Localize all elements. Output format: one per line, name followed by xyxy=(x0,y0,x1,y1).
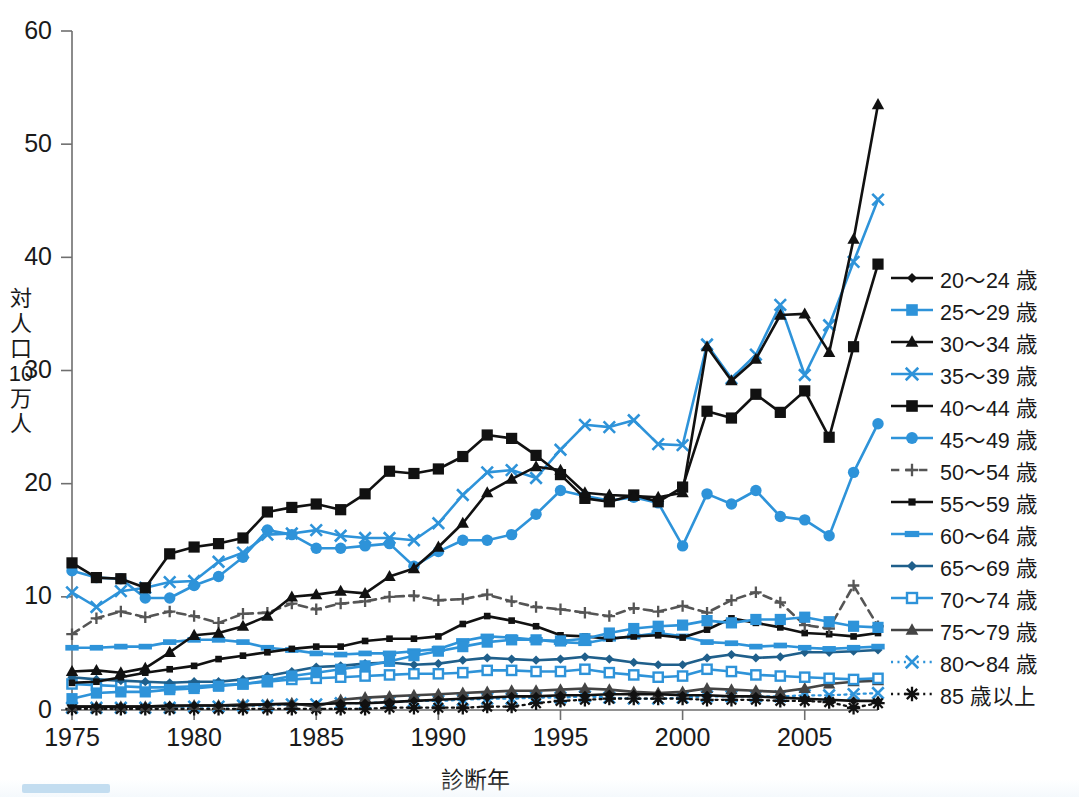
legend-swatch-14 xyxy=(888,681,936,707)
marker-rect-wide xyxy=(310,651,323,657)
marker-plus xyxy=(188,610,200,622)
legend-item[interactable]: 25～29 歳 xyxy=(888,294,1074,326)
marker-square xyxy=(906,400,918,412)
marker-plus xyxy=(457,593,469,605)
marker-square xyxy=(262,506,273,517)
y-tick-label: 0 xyxy=(38,695,52,723)
marker-square-small xyxy=(362,638,369,645)
marker-square-open xyxy=(702,665,711,674)
marker-square xyxy=(482,637,493,648)
marker-plus xyxy=(775,597,787,609)
marker-square-open xyxy=(409,669,418,678)
marker-circle xyxy=(701,488,712,499)
marker-circle xyxy=(555,485,566,496)
marker-square-open xyxy=(849,675,858,684)
marker-square xyxy=(213,681,224,692)
marker-square-open xyxy=(434,669,443,678)
marker-rect-wide xyxy=(383,651,396,657)
marker-rect-wide xyxy=(139,644,152,650)
legend-item[interactable]: 50～54 歳 xyxy=(888,454,1074,486)
marker-square xyxy=(335,504,346,515)
marker-plus xyxy=(530,601,542,613)
y-axis-title-char: 人 xyxy=(6,411,36,436)
y-axis-title: 対人口10万人 xyxy=(6,286,36,436)
marker-circle xyxy=(775,511,786,522)
legend-marker xyxy=(905,687,920,702)
marker-x xyxy=(872,194,884,206)
marker-square-open xyxy=(678,671,687,680)
marker-square xyxy=(408,468,419,479)
marker-square xyxy=(457,641,468,652)
legend-swatch-8 xyxy=(888,489,936,515)
marker-square-open xyxy=(800,673,809,682)
marker-plus xyxy=(628,602,640,614)
marker-diamond xyxy=(409,660,418,669)
marker-diamond xyxy=(556,654,565,663)
marker-triangle xyxy=(847,233,859,244)
marker-square xyxy=(237,678,248,689)
marker-circle xyxy=(872,418,883,429)
legend-item[interactable]: 70～74 歳 xyxy=(888,582,1074,614)
marker-square xyxy=(384,656,395,667)
marker-circle xyxy=(213,571,224,582)
legend-item[interactable]: 45～49 歳 xyxy=(888,422,1074,454)
marker-circle xyxy=(677,540,688,551)
marker-x xyxy=(213,556,225,568)
legend-marker xyxy=(906,432,918,444)
marker-square xyxy=(384,466,395,477)
marker-square-small xyxy=(289,646,296,653)
marker-square-open xyxy=(605,668,614,677)
page-bottom-accent-bar xyxy=(22,784,110,793)
legend-item[interactable]: 20～24 歳 xyxy=(888,262,1074,294)
marker-square-small xyxy=(93,678,100,685)
legend-item[interactable]: 60～64 歳 xyxy=(888,518,1074,550)
marker-square-small xyxy=(655,632,662,639)
marker-triangle xyxy=(530,460,542,471)
marker-rect-wide xyxy=(163,639,176,645)
marker-rect-wide xyxy=(90,645,103,651)
legend-item[interactable]: 80～84 歳 xyxy=(888,646,1074,678)
marker-plus xyxy=(310,604,322,616)
axis-labels: 0102030405060197519801985199019952000200… xyxy=(24,16,832,793)
marker-square-small xyxy=(459,621,466,628)
marker-rect-wide xyxy=(847,645,860,651)
marker-diamond xyxy=(507,654,516,663)
legend-item[interactable]: 35～39 歳 xyxy=(888,358,1074,390)
marker-square xyxy=(433,463,444,474)
marker-plus xyxy=(481,589,493,601)
legend-marker xyxy=(907,273,917,283)
marker-square xyxy=(189,541,200,552)
marker-square xyxy=(66,693,77,704)
marker-square xyxy=(506,433,517,444)
legend-item[interactable]: 40～44 歳 xyxy=(888,390,1074,422)
legend-item[interactable]: 75～79 歳 xyxy=(888,614,1074,646)
legend-marker xyxy=(908,498,915,505)
legend-label: 35～39 歳 xyxy=(936,359,1038,390)
legend-swatch-5 xyxy=(888,393,936,419)
marker-square-open xyxy=(580,665,589,674)
series-layer xyxy=(65,98,884,715)
marker-asterisk xyxy=(905,687,920,702)
marker-square xyxy=(530,450,541,461)
marker-square-open xyxy=(873,674,882,683)
marker-x xyxy=(555,444,567,456)
legend-item[interactable]: 30～34 歳 xyxy=(888,326,1074,358)
marker-plus xyxy=(726,594,738,606)
marker-square xyxy=(164,684,175,695)
legend-item[interactable]: 65～69 歳 xyxy=(888,550,1074,582)
legend-item[interactable]: 85 歳以上 xyxy=(888,678,1074,710)
marker-plus xyxy=(652,606,664,618)
marker-square xyxy=(824,616,835,627)
series-3 xyxy=(66,98,884,677)
marker-diamond xyxy=(580,652,589,661)
marker-circle xyxy=(311,542,322,553)
marker-square-open xyxy=(907,593,917,603)
axis-frame xyxy=(72,31,878,710)
y-axis-title-char: 10 xyxy=(6,361,36,386)
legend-label: 50～54 歳 xyxy=(936,455,1038,486)
marker-square-small xyxy=(679,634,686,641)
marker-plus xyxy=(384,591,396,603)
x-tick-label: 1980 xyxy=(166,723,222,751)
marker-square xyxy=(213,538,224,549)
legend-item[interactable]: 55～59 歳 xyxy=(888,486,1074,518)
